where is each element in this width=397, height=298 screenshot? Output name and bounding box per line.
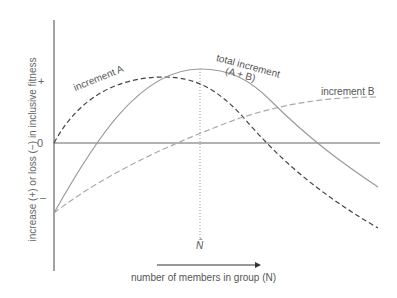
y-tick-zero: 0 [37, 137, 43, 149]
diagram-canvas [0, 0, 397, 298]
y-tick-minus: – [40, 191, 46, 203]
y-axis-label: increase (+) or loss (−) in inclusive fi… [27, 50, 38, 250]
x-axis-label: number of members in group (N) [131, 272, 276, 283]
increment-b-curve [54, 97, 378, 213]
x-axis-arrowhead-icon [255, 262, 261, 268]
increment-b-label: increment B [321, 86, 374, 97]
y-tick-plus: + [38, 75, 44, 87]
n-hat-label: N̂ [196, 240, 203, 251]
